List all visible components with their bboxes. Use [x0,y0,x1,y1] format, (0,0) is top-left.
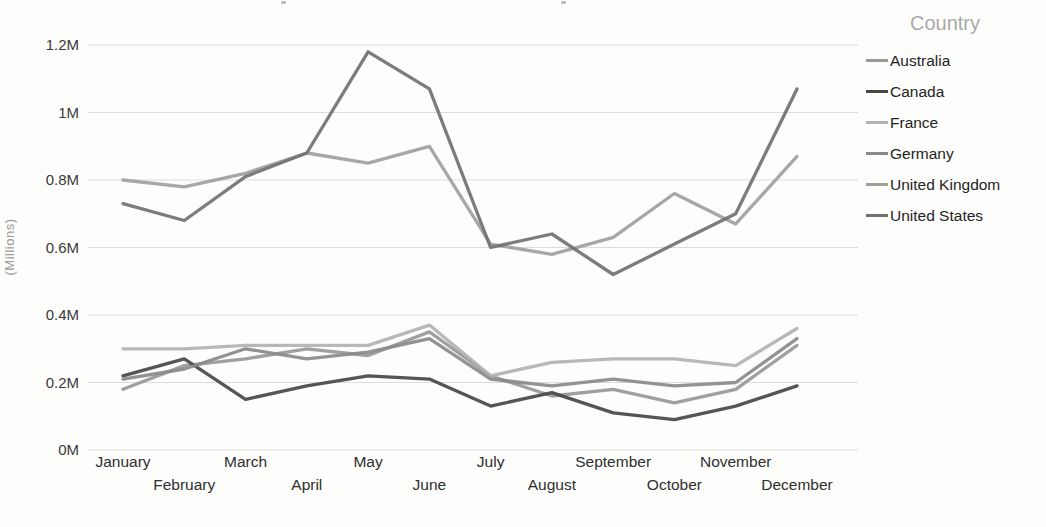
series-lines-layer [123,52,797,420]
y-axis-tick-labels: 0M0.2M0.4M0.6M0.8M1M1.2M [46,36,79,458]
y-tick-label: 1M [58,104,79,121]
scan-artifact [281,1,286,4]
x-tick-label: October [647,476,702,493]
x-tick-label: June [413,476,447,493]
legend-label: United States [890,207,983,225]
gridlines-layer [88,45,858,450]
series-line-united-kingdom[interactable] [123,146,797,254]
series-line-canada[interactable] [123,359,797,420]
legend-label: United Kingdom [890,176,1000,194]
legend-label: Germany [890,145,954,163]
legend-label: Australia [890,52,950,70]
y-tick-label: 1.2M [46,36,79,53]
legend-item-united-states[interactable]: United States [866,200,1041,231]
x-tick-label: May [353,453,383,470]
x-tick-label: September [575,453,651,470]
y-tick-label: 0.8M [46,171,79,188]
x-tick-label: November [700,453,772,470]
y-tick-label: 0M [58,441,79,458]
legend-swatch-icon [866,183,888,186]
legend-item-canada[interactable]: Canada [866,76,1041,107]
legend-swatch-icon [866,59,888,62]
legend-label: France [890,114,938,132]
legend-swatch-icon [866,152,888,155]
legend-items: AustraliaCanadaFranceGermanyUnited Kingd… [866,45,1041,231]
x-tick-label: July [477,453,505,470]
y-tick-label: 0.4M [46,306,79,323]
chart-legend: Country AustraliaCanadaFranceGermanyUnit… [866,12,1041,231]
x-tick-label: March [224,453,267,470]
x-axis-tick-labels: JanuaryFebruaryMarchAprilMayJuneJulyAugu… [95,453,832,493]
line-chart-canvas: 0M0.2M0.4M0.6M0.8M1M1.2M JanuaryFebruary… [0,0,1046,527]
scan-artifact [561,1,566,4]
y-axis-title: (Millions) [2,219,17,276]
legend-title: Country [866,12,1041,35]
y-tick-label: 0.6M [46,239,79,256]
legend-swatch-icon [866,90,888,93]
x-tick-label: December [761,476,833,493]
series-line-france[interactable] [123,325,797,376]
x-tick-label: August [528,476,577,493]
y-tick-label: 0.2M [46,374,79,391]
legend-item-germany[interactable]: Germany [866,138,1041,169]
legend-label: Canada [890,83,944,101]
x-tick-label: February [153,476,215,493]
legend-swatch-icon [866,214,888,217]
legend-item-australia[interactable]: Australia [866,45,1041,76]
legend-swatch-icon [866,121,888,124]
series-line-united-states[interactable] [123,52,797,275]
legend-item-france[interactable]: France [866,107,1041,138]
legend-item-united-kingdom[interactable]: United Kingdom [866,169,1041,200]
x-tick-label: April [291,476,322,493]
x-tick-label: January [95,453,150,470]
